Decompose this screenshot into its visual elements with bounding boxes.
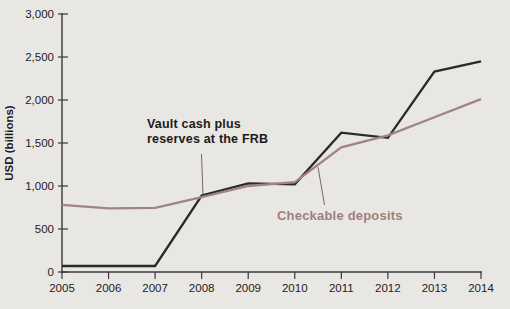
y-tick-label: 2,500 xyxy=(25,51,54,63)
y-tick-label: 1,000 xyxy=(25,180,54,192)
checkable-deposits-annotation: Checkable deposits xyxy=(277,208,403,223)
x-tick-label: 2005 xyxy=(49,282,75,294)
series-line-vault-cash-reserves xyxy=(62,61,481,266)
y-axis-title: USD (billions) xyxy=(3,105,15,181)
y-tick-label: 3,000 xyxy=(25,8,54,20)
vault-cash-annotation-line1: Vault cash plus xyxy=(147,117,268,132)
line-chart-figure: 05001,0001,5002,0002,5003,00020052006200… xyxy=(0,0,510,309)
chart-canvas: 05001,0001,5002,0002,5003,00020052006200… xyxy=(0,0,510,309)
y-tick-label: 1,500 xyxy=(25,137,54,149)
vault-cash-annotation: Vault cash plus reserves at the FRB xyxy=(147,117,268,147)
x-tick-label: 2007 xyxy=(142,282,168,294)
x-tick-label: 2014 xyxy=(468,282,494,294)
annotation-leader-lines xyxy=(202,154,325,205)
y-tick-label: 500 xyxy=(35,223,54,235)
y-tick-label: 2,000 xyxy=(25,94,54,106)
x-tick-label: 2009 xyxy=(235,282,261,294)
x-tick-label: 2008 xyxy=(189,282,215,294)
axes xyxy=(61,13,482,273)
x-tick-label: 2010 xyxy=(282,282,308,294)
x-tick-label: 2011 xyxy=(329,282,354,294)
tick-marks xyxy=(58,14,481,279)
vault-cash-annotation-line2: reserves at the FRB xyxy=(147,132,268,147)
series-lines xyxy=(62,61,481,266)
y-tick-label: 0 xyxy=(48,266,54,278)
x-tick-label: 2006 xyxy=(96,282,122,294)
checkable-annotation-leader-line xyxy=(318,167,325,205)
vault-annotation-leader-line xyxy=(202,154,204,195)
series-line-checkable-deposits xyxy=(62,99,481,208)
x-tick-label: 2012 xyxy=(375,282,401,294)
x-tick-label: 2013 xyxy=(422,282,448,294)
tick-labels: 05001,0001,5002,0002,5003,00020052006200… xyxy=(25,8,494,294)
